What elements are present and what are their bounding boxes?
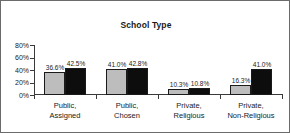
category-label-line: Private, bbox=[215, 101, 287, 111]
bar-value-label: 42.5% bbox=[59, 60, 93, 67]
y-axis-tick-label: 60% bbox=[0, 54, 29, 61]
category-separator bbox=[220, 95, 221, 99]
bar bbox=[127, 68, 148, 95]
bar bbox=[168, 89, 189, 95]
category-separator bbox=[282, 95, 283, 99]
bar-group: 16.3%41.0% bbox=[230, 45, 272, 95]
bar bbox=[106, 69, 127, 95]
bar-group: 10.3%10.8% bbox=[168, 45, 210, 95]
y-axis-tick-label: 20% bbox=[0, 79, 29, 86]
bar bbox=[44, 72, 65, 95]
bar-value-label: 42.8% bbox=[121, 60, 155, 67]
bar-value-label: 10.8% bbox=[183, 80, 217, 87]
category-separator bbox=[158, 95, 159, 99]
chart-figure: School Type 0%20%40%60%80% 36.6%42.5%41.… bbox=[0, 0, 290, 133]
bar-group: 36.6%42.5% bbox=[44, 45, 86, 95]
category-label: Private,Non-Religious bbox=[215, 101, 287, 120]
category-separator bbox=[96, 95, 97, 99]
y-axis-tick-label: 80% bbox=[0, 42, 29, 49]
bar bbox=[230, 85, 251, 95]
bar bbox=[251, 69, 272, 95]
bar-value-label: 41.0% bbox=[245, 61, 279, 68]
chart-title: School Type bbox=[1, 20, 290, 30]
bar bbox=[65, 68, 86, 95]
plot-area: 36.6%42.5%41.0%42.8%10.3%10.8%16.3%41.0% bbox=[34, 45, 282, 95]
y-axis-tick-label: 0% bbox=[0, 92, 29, 99]
category-separator bbox=[34, 95, 35, 99]
bar-group: 41.0%42.8% bbox=[106, 45, 148, 95]
y-axis-tick-label: 40% bbox=[0, 67, 29, 74]
bar bbox=[189, 88, 210, 95]
category-label-line: Non-Religious bbox=[215, 111, 287, 121]
